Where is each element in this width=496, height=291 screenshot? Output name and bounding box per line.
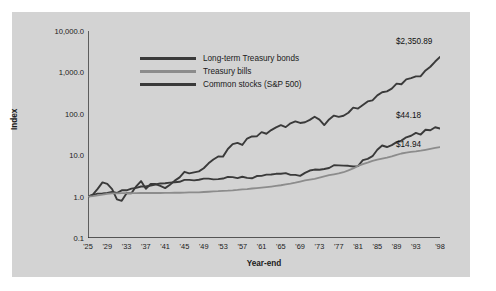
- x-tick-label: '45: [180, 242, 190, 251]
- x-tick-label: '53: [218, 242, 228, 251]
- x-tick-label: '33: [122, 242, 132, 251]
- x-tick-label: '61: [257, 242, 267, 251]
- legend-item: Long-term Treasury bonds: [140, 52, 302, 65]
- x-tick-label: '57: [237, 242, 247, 251]
- legend-label: Treasury bills: [203, 67, 251, 76]
- y-tick-label: 1,000.0: [59, 68, 84, 77]
- legend-swatch: [140, 83, 196, 86]
- chart-panel: 10,000.01,000.0100.010.01.00.1 Index '25…: [12, 12, 470, 277]
- y-tick-label: 10.0: [69, 151, 84, 160]
- x-tick-label: '93: [411, 242, 421, 251]
- legend-label: Common stocks (S&P 500): [203, 80, 302, 89]
- x-tick-label: '49: [199, 242, 209, 251]
- x-tick-label: '85: [372, 242, 382, 251]
- legend-label: Long-term Treasury bonds: [203, 54, 299, 63]
- x-tick-label: '98: [435, 242, 445, 251]
- x-tick-label: '73: [315, 242, 325, 251]
- legend-swatch: [140, 57, 196, 60]
- y-tick-label: 1.0: [73, 192, 84, 201]
- x-tick-label: '69: [295, 242, 305, 251]
- legend-item: Common stocks (S&P 500): [140, 78, 302, 91]
- y-tick-label: 100.0: [65, 109, 84, 118]
- x-tick-label: '41: [160, 242, 170, 251]
- x-tick-label: '25: [83, 242, 93, 251]
- x-tick-label: '37: [141, 242, 151, 251]
- legend-swatch: [140, 70, 196, 73]
- x-tick-label: '65: [276, 242, 286, 251]
- series-end-value-label: $44.18: [396, 111, 421, 120]
- x-axis-title: Year-end: [88, 259, 440, 268]
- y-tick-label: 10,000.0: [54, 27, 84, 36]
- series-end-value-label: $2,350.89: [396, 37, 432, 46]
- series-end-value-label: $14.94: [396, 140, 421, 149]
- series-line: [88, 147, 440, 197]
- x-tick-label: '81: [353, 242, 363, 251]
- x-tick-label: '77: [334, 242, 344, 251]
- x-tick-label: '89: [392, 242, 402, 251]
- series-line: [88, 127, 440, 196]
- chart-legend: Long-term Treasury bondsTreasury billsCo…: [140, 52, 302, 91]
- x-axis-tick-labels: '25'29'33'37'41'45'49'53'57'61'65'69'73'…: [88, 242, 440, 256]
- y-axis-title: Index: [10, 109, 19, 130]
- x-tick-label: '29: [102, 242, 112, 251]
- y-axis-tick-labels: 10,000.01,000.0100.010.01.00.1: [12, 31, 84, 238]
- legend-item: Treasury bills: [140, 65, 302, 78]
